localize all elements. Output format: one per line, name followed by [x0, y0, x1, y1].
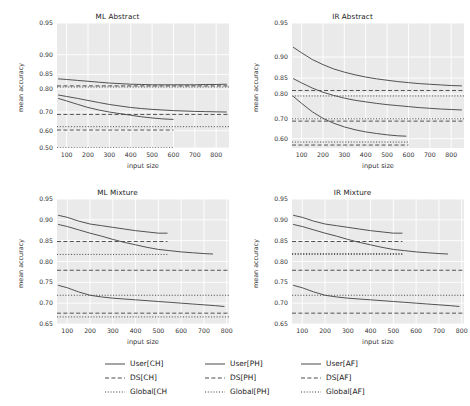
legend-label: User[PH]	[230, 359, 263, 368]
legend-item[interactable]: Global[PH]	[204, 385, 269, 398]
x-tick-label: 800	[450, 328, 470, 334]
x-tick-label: 300	[336, 328, 360, 334]
x-tick-label: 200	[78, 328, 102, 334]
y-tick-label: 0.70	[25, 109, 53, 115]
y-tick-label: 0.95	[260, 196, 288, 202]
x-tick-label: 400	[124, 328, 148, 334]
y-axis-label: mean accuracy	[252, 239, 260, 288]
x-tick-label: 700	[192, 328, 216, 334]
x-tick-label: 500	[146, 328, 170, 334]
x-tick-label: 600	[404, 328, 428, 334]
series-line	[293, 96, 406, 136]
series-line	[58, 98, 173, 119]
legend-item[interactable]: DS[CH]	[104, 371, 157, 384]
y-tick-label: 0.85	[25, 238, 53, 244]
subplot-ml-mixture: ML Mixture mean accuracy input size 0.95…	[0, 188, 235, 351]
y-axis-label: mean accuracy	[17, 63, 25, 112]
dotted-line-icon	[300, 388, 322, 396]
series-line	[293, 47, 462, 86]
y-tick-label: 0.65	[25, 321, 53, 327]
dashed-line-icon	[300, 374, 322, 382]
legend-item[interactable]: User[AF]	[300, 357, 358, 370]
solid-line-icon	[300, 360, 322, 368]
x-axis-label: input size	[57, 338, 229, 346]
subplot-ir-abstract: IR Abstract mean accuracy input size 0.9…	[235, 12, 470, 175]
x-tick-label: 100	[290, 328, 314, 334]
y-axis-label: mean accuracy	[17, 239, 25, 288]
y-axis-label: mean accuracy	[252, 63, 260, 112]
x-tick-label: 100	[55, 328, 79, 334]
legend-label: DS[CH]	[130, 373, 157, 382]
y-tick-label: 0.85	[25, 71, 53, 77]
subplot-ir-mixture: IR Mixture mean accuracy input size 0.95…	[235, 188, 470, 351]
plot-area	[292, 199, 464, 324]
legend-item[interactable]: User[CH]	[104, 357, 163, 370]
dotted-line-icon	[104, 388, 126, 396]
series-line	[58, 95, 227, 112]
y-tick-label: 0.75	[260, 279, 288, 285]
legend-item[interactable]: DS[PH]	[204, 371, 256, 384]
legend-item[interactable]: Global[AF]	[300, 385, 365, 398]
x-axis-label: input size	[292, 338, 464, 346]
y-tick-label: 0.95	[25, 20, 53, 26]
dashed-line-icon	[204, 374, 226, 382]
y-tick-label: 0.70	[260, 116, 288, 122]
dashed-line-icon	[104, 374, 126, 382]
x-tick-label: 800	[439, 152, 463, 158]
y-tick-label: 0.65	[260, 321, 288, 327]
y-tick-label: 0.90	[260, 54, 288, 60]
legend-label: DS[AF]	[326, 373, 351, 382]
y-tick-label: 0.80	[25, 86, 53, 92]
subplot-ml-abstract: ML Abstract mean accuracy input size 0.9…	[0, 12, 235, 175]
y-tick-label: 0.80	[260, 259, 288, 265]
y-tick-label: 0.95	[260, 20, 288, 26]
y-tick-label: 0.95	[25, 196, 53, 202]
legend-label: User[AF]	[326, 359, 358, 368]
x-tick-label: 700	[427, 328, 451, 334]
x-tick-label: 500	[381, 328, 405, 334]
y-tick-label: 0.70	[25, 300, 53, 306]
legend-label: Global[PH]	[230, 387, 269, 396]
y-tick-label: 0.60	[260, 136, 288, 142]
solid-line-icon	[204, 360, 226, 368]
plot-area	[57, 23, 229, 148]
y-tick-label: 0.60	[25, 128, 53, 134]
y-tick-label: 0.50	[25, 145, 53, 151]
legend-item[interactable]: Global[CH	[104, 385, 167, 398]
y-tick-label: 0.80	[25, 259, 53, 265]
legend-item[interactable]: DS[AF]	[300, 371, 351, 384]
y-tick-label: 0.85	[260, 75, 288, 81]
y-tick-label: 0.80	[260, 91, 288, 97]
legend-label: Global[CH	[130, 387, 167, 396]
legend-item[interactable]: User[PH]	[204, 357, 263, 370]
x-tick-label: 800	[204, 152, 228, 158]
x-tick-label: 300	[101, 328, 125, 334]
dotted-line-icon	[204, 388, 226, 396]
y-tick-label: 0.75	[25, 279, 53, 285]
solid-line-icon	[104, 360, 126, 368]
plot-area	[57, 199, 229, 324]
x-tick-label: 400	[359, 328, 383, 334]
y-tick-label: 0.85	[260, 238, 288, 244]
y-tick-label: 0.90	[260, 217, 288, 223]
y-tick-label: 0.70	[260, 300, 288, 306]
legend-label: DS[PH]	[230, 373, 256, 382]
y-tick-label: 0.90	[25, 217, 53, 223]
x-axis-label: input size	[292, 162, 464, 170]
legend-label: Global[AF]	[326, 387, 365, 396]
x-tick-label: 600	[169, 328, 193, 334]
plot-area	[292, 23, 464, 148]
figure-canvas: ML Abstract mean accuracy input size 0.9…	[0, 0, 470, 406]
x-tick-label: 200	[313, 328, 337, 334]
series-line	[58, 79, 227, 85]
chart-legend: User[CH]User[PH]User[AF]DS[CH]DS[PH]DS[A…	[104, 357, 394, 403]
legend-label: User[CH]	[130, 359, 163, 368]
y-tick-label: 0.90	[25, 52, 53, 58]
x-axis-label: input size	[57, 162, 229, 170]
